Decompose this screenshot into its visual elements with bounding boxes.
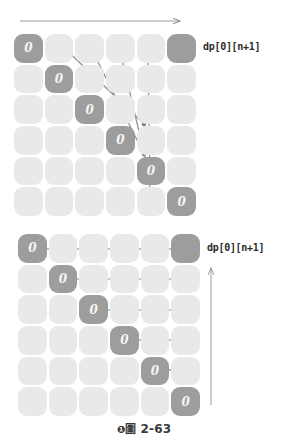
- dp-cell-filled: [167, 34, 196, 63]
- bottom-dp-grid: 000000: [18, 234, 200, 416]
- dp-cell-empty: [49, 326, 78, 355]
- dp-cell-empty: [110, 265, 139, 294]
- dp-cell-empty: [75, 157, 104, 186]
- caption-marker-icon: ❶: [117, 424, 126, 435]
- dp-cell-empty: [18, 387, 47, 416]
- row-traversal-diagram: 000000 dp[0][n+1]: [0, 228, 288, 413]
- dp-cell-value: 0: [14, 34, 43, 63]
- dp-cell-empty: [14, 126, 43, 155]
- dp-cell-empty: [14, 157, 43, 186]
- dp-cell-empty: [110, 234, 139, 263]
- dp-cell-value: 0: [141, 357, 170, 386]
- dp-cell-empty: [18, 326, 47, 355]
- dp-cell-empty: [171, 357, 200, 386]
- dp-cell-empty: [75, 34, 104, 63]
- dp-cell-empty: [137, 34, 166, 63]
- dp-cell-empty: [75, 187, 104, 216]
- dp-cell-empty: [167, 95, 196, 124]
- top-dp-grid: 000000: [14, 34, 196, 216]
- dp-cell-empty: [171, 265, 200, 294]
- dp-cell-empty: [171, 326, 200, 355]
- dp-cell-empty: [106, 187, 135, 216]
- top-diagram-label: dp[0][n+1]: [203, 41, 260, 52]
- dp-cell-value: 0: [49, 265, 78, 294]
- dp-cell-value: 0: [79, 295, 108, 324]
- caption-cjk-label: 圖: [125, 423, 136, 436]
- dp-cell-filled: 0: [110, 326, 139, 355]
- dp-cell-empty: [18, 357, 47, 386]
- dp-cell-empty: [49, 357, 78, 386]
- dp-cell-empty: [79, 234, 108, 263]
- dp-cell-empty: [18, 295, 47, 324]
- dp-cell-filled: 0: [167, 187, 196, 216]
- dp-cell-empty: [167, 126, 196, 155]
- dp-cell-filled: 0: [137, 157, 166, 186]
- dp-cell-empty: [18, 265, 47, 294]
- dp-cell-empty: [79, 387, 108, 416]
- dp-cell-value: 0: [137, 157, 166, 186]
- dp-cell-empty: [45, 157, 74, 186]
- dp-cell-value: 0: [167, 187, 196, 216]
- dp-cell-empty: [106, 65, 135, 94]
- dp-cell-empty: [45, 95, 74, 124]
- dp-cell-empty: [106, 34, 135, 63]
- dp-cell-empty: [79, 357, 108, 386]
- dp-cell-empty: [49, 295, 78, 324]
- dp-cell-empty: [14, 95, 43, 124]
- dp-cell-empty: [141, 234, 170, 263]
- dp-cell-empty: [75, 65, 104, 94]
- dp-cell-value: [167, 34, 196, 63]
- figure-root: 000000 dp[0][n+1]: [0, 0, 288, 443]
- dp-cell-empty: [171, 295, 200, 324]
- dp-cell-filled: 0: [75, 95, 104, 124]
- dp-cell-empty: [106, 95, 135, 124]
- dp-cell-filled: 0: [49, 265, 78, 294]
- dp-cell-filled: [171, 234, 200, 263]
- dp-cell-empty: [141, 387, 170, 416]
- dp-cell-empty: [45, 126, 74, 155]
- dp-cell-value: 0: [45, 65, 74, 94]
- dp-cell-empty: [137, 187, 166, 216]
- dp-cell-empty: [110, 387, 139, 416]
- dp-cell-empty: [137, 126, 166, 155]
- dp-cell-empty: [45, 34, 74, 63]
- dp-cell-value: 0: [110, 326, 139, 355]
- dp-cell-value: 0: [171, 387, 200, 416]
- dp-cell-value: 0: [106, 126, 135, 155]
- bottom-diagram-label: dp[0][n+1]: [207, 242, 264, 253]
- dp-cell-empty: [141, 295, 170, 324]
- dp-cell-empty: [167, 157, 196, 186]
- dp-cell-empty: [110, 295, 139, 324]
- dp-cell-empty: [75, 126, 104, 155]
- dp-cell-empty: [49, 387, 78, 416]
- dp-cell-empty: [141, 265, 170, 294]
- dp-cell-value: 0: [18, 234, 47, 263]
- dp-cell-filled: 0: [45, 65, 74, 94]
- dp-cell-filled: 0: [106, 126, 135, 155]
- dp-cell-empty: [14, 65, 43, 94]
- dp-cell-empty: [110, 357, 139, 386]
- dp-cell-empty: [106, 157, 135, 186]
- dp-cell-value: 0: [75, 95, 104, 124]
- diagonal-traversal-diagram: 000000 dp[0][n+1]: [0, 0, 288, 228]
- dp-cell-filled: 0: [141, 357, 170, 386]
- dp-cell-empty: [79, 265, 108, 294]
- dp-cell-empty: [137, 95, 166, 124]
- dp-cell-empty: [45, 187, 74, 216]
- figure-caption: ❶圖 2-63: [0, 420, 288, 436]
- caption-number: 2-63: [141, 422, 172, 436]
- dp-cell-empty: [49, 234, 78, 263]
- dp-cell-empty: [14, 187, 43, 216]
- dp-cell-filled: 0: [18, 234, 47, 263]
- dp-cell-empty: [79, 326, 108, 355]
- dp-cell-empty: [141, 326, 170, 355]
- dp-cell-filled: 0: [79, 295, 108, 324]
- dp-cell-empty: [167, 65, 196, 94]
- dp-cell-filled: 0: [14, 34, 43, 63]
- dp-cell-filled: 0: [171, 387, 200, 416]
- dp-cell-empty: [137, 65, 166, 94]
- dp-cell-value: [171, 234, 200, 263]
